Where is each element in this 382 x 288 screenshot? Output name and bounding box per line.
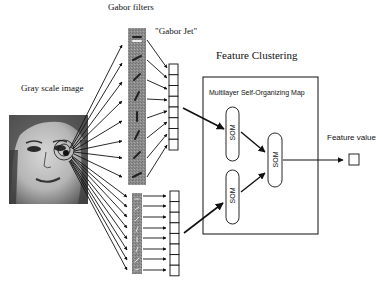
- gabor-jet-bottom: [170, 191, 179, 276]
- top-filters-to-jet-arrows: [147, 40, 167, 177]
- diagram-svg: [0, 0, 382, 288]
- bottom-filters-to-jet-arrows: [143, 196, 166, 270]
- diagram-canvas: Gabor filters "Gabor Jet" Gray scale ima…: [0, 0, 382, 288]
- som-node-3-label: SOM: [272, 149, 279, 171]
- som1-to-som3-arrow: [241, 132, 265, 152]
- gabor-filters-label: Gabor filters: [108, 3, 154, 12]
- feature-value-label: Feature value: [327, 134, 376, 142]
- msom-box-title: Multilayer Self-Organizing Map: [209, 89, 305, 96]
- feature-clustering-title: Feature Clustering: [216, 50, 298, 61]
- som-node-1-label: SOM: [229, 122, 236, 143]
- msom-box: [203, 77, 318, 234]
- som2-to-som3-arrow: [241, 173, 265, 192]
- gabor-filter-strip-top: [128, 28, 146, 185]
- gabor-filter-strip-bottom: [132, 193, 142, 274]
- gabor-jet-label: "Gabor Jet": [155, 27, 197, 36]
- som-node-2-label: SOM: [229, 185, 236, 206]
- feature-value-box: [349, 154, 359, 165]
- gray-scale-image-label: Gray scale image: [21, 84, 83, 93]
- gabor-jet-top: [169, 64, 178, 150]
